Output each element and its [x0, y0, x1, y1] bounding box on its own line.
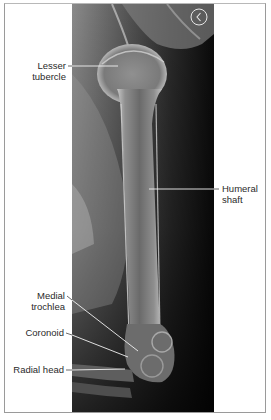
label-line: Lesser	[32, 60, 66, 71]
label-medial-trochlea: Medial trochlea	[31, 290, 65, 312]
label-line: Medial	[31, 290, 65, 301]
label-line: Coronoid	[25, 327, 64, 338]
label-humeral-shaft: Humeral shaft	[222, 183, 258, 205]
side-marker-l-icon	[190, 8, 208, 26]
label-line: Humeral	[222, 183, 258, 194]
label-coronoid: Coronoid	[25, 327, 64, 338]
label-line: trochlea	[31, 301, 65, 312]
label-radial-head: Radial head	[13, 364, 64, 375]
xray-image	[72, 4, 214, 412]
label-lesser-tubercle: Lesser tubercle	[32, 60, 66, 82]
label-line: Radial head	[13, 364, 64, 375]
label-line: shaft	[222, 194, 258, 205]
label-line: tubercle	[32, 71, 66, 82]
